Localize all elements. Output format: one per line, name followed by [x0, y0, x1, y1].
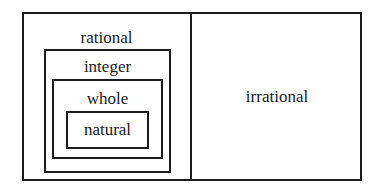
natural-label: natural [66, 121, 149, 138]
rational-label: rational [22, 29, 191, 46]
irrational-label: irrational [192, 88, 362, 105]
integer-label: integer [44, 58, 171, 75]
whole-label: whole [52, 90, 163, 107]
